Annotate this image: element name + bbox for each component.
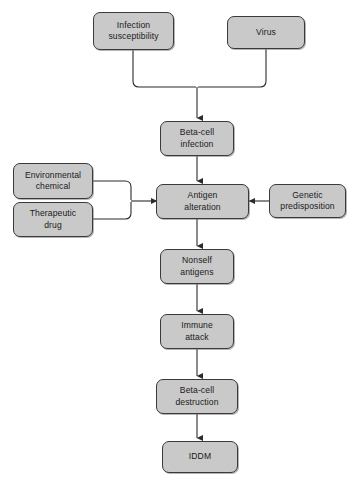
node-antigen-alteration-label: Antigen alteration [181, 190, 223, 213]
node-virus-label: Virus [253, 27, 279, 39]
edge-therapeutic-to-merge [93, 202, 131, 219]
node-genetic-predisposition-label: Genetic predisposition [277, 190, 337, 213]
pathogenesis-flowchart: Infection susceptibility Virus Beta-cell… [0, 0, 360, 484]
node-virus: Virus [227, 16, 305, 49]
node-beta-cell-destruction: Beta-cell destruction [156, 379, 238, 414]
node-environmental-chemical-label: Environmental chemical [22, 170, 84, 193]
node-iddm: IDDM [162, 441, 238, 473]
node-beta-cell-destruction-label: Beta-cell destruction [172, 385, 221, 408]
edge-environmental-to-merge [93, 181, 131, 200]
node-therapeutic-drug: Therapeutic drug [13, 202, 93, 237]
edge-infection-to-merge [133, 50, 196, 87]
node-therapeutic-drug-label: Therapeutic drug [27, 208, 79, 231]
node-immune-attack: Immune attack [160, 314, 234, 349]
node-beta-cell-infection-label: Beta-cell infection [177, 127, 217, 150]
node-beta-cell-infection: Beta-cell infection [160, 121, 234, 156]
node-immune-attack-label: Immune attack [178, 320, 216, 343]
edge-virus-to-merge [198, 49, 266, 87]
node-iddm-label: IDDM [186, 451, 214, 463]
node-infection-susceptibility: Infection susceptibility [93, 12, 174, 50]
node-genetic-predisposition: Genetic predisposition [269, 184, 346, 218]
node-nonself-antigens-label: Nonself antigens [177, 255, 216, 278]
node-antigen-alteration: Antigen alteration [156, 184, 249, 219]
node-infection-susceptibility-label: Infection susceptibility [105, 20, 161, 43]
node-environmental-chemical: Environmental chemical [13, 163, 93, 199]
node-nonself-antigens: Nonself antigens [160, 249, 234, 284]
